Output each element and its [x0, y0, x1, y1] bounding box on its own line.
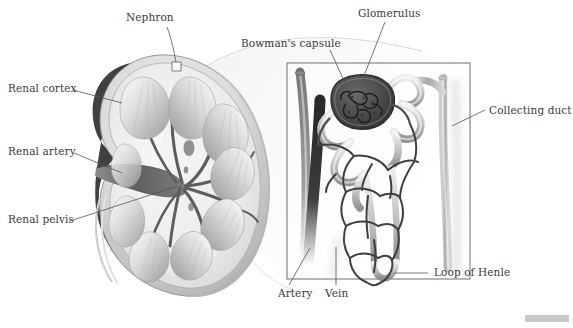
label-nephron: Nephron	[126, 12, 174, 23]
label-artery: Artery	[278, 288, 313, 299]
bowmans-capsule-shape	[331, 75, 394, 129]
label-bowmans-capsule: Bowman's capsule	[241, 38, 341, 49]
kidney-nephron-figure: Nephron Renal cortex Renal artery Renal …	[0, 0, 573, 328]
label-loop-of-henle: Loop of Henle	[434, 267, 510, 278]
label-renal-artery: Renal artery	[8, 146, 76, 157]
label-vein: Vein	[325, 288, 348, 299]
figure-artwork	[0, 0, 573, 328]
label-collecting-duct: Collecting duct	[489, 105, 572, 116]
nephron-location-marker	[172, 62, 181, 71]
corner-scale-bar	[525, 315, 569, 322]
label-renal-cortex: Renal cortex	[8, 83, 77, 94]
label-glomerulus: Glomerulus	[358, 8, 421, 19]
label-renal-pelvis: Renal pelvis	[8, 214, 74, 225]
nephron-detail-box	[287, 63, 470, 285]
